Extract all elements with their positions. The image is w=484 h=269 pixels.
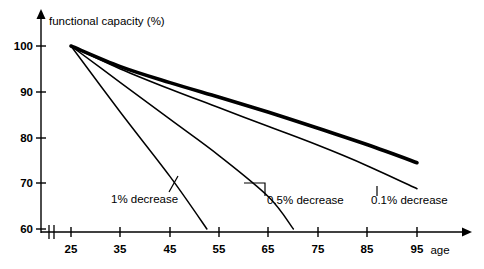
y-tick-label: 90 [20,86,33,98]
y-tick-label: 100 [14,40,33,52]
functional-capacity-line-chart: 100 90 80 70 60 25 35 45 55 65 75 85 95 [0,0,484,269]
series-line-0-1-percent-upper [71,46,417,163]
y-axis-title: functional capacity (%) [49,15,165,27]
series-line-0-5-percent [71,46,293,229]
x-tick-label: 65 [262,243,275,255]
y-tick-label: 60 [20,223,33,235]
y-tick-label: 80 [20,132,33,144]
y-axis-arrow-icon [37,9,46,19]
x-tick-label: 85 [361,243,374,255]
x-axis [41,225,472,239]
x-tick-label: 45 [164,243,177,255]
x-tick-label: 95 [411,243,424,255]
y-axis [37,9,46,233]
annotation-0-1-percent: 0.1% decrease [371,194,448,206]
x-axis-arrow-icon [462,228,472,237]
annotation-1-percent: 1% decrease [111,193,178,205]
x-tick-label: 25 [65,243,78,255]
x-tick-label: 55 [213,243,226,255]
chart-figure: 100 90 80 70 60 25 35 45 55 65 75 85 95 [0,0,484,269]
annotation-0-5-percent: 0.5% decrease [267,194,344,206]
x-tick-label: 75 [312,243,325,255]
leader-line-1-percent [169,176,178,192]
y-axis-tick-labels: 100 90 80 70 60 [14,40,33,235]
x-tick-label: 35 [114,243,127,255]
y-tick-label: 70 [20,177,33,189]
x-axis-tick-labels: 25 35 45 55 65 75 85 95 [65,243,424,255]
x-axis-title: age [430,244,449,256]
